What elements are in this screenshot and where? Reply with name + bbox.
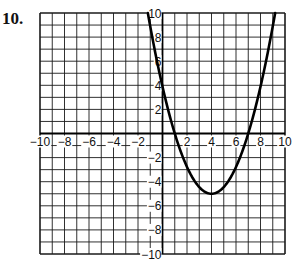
x-tick-label: −4 (107, 135, 121, 149)
y-tick-label: 8 (155, 31, 162, 45)
x-tick-label: −2 (131, 135, 145, 149)
y-tick-label: 10 (148, 7, 162, 21)
x-tick-label: 10 (278, 135, 292, 149)
x-tick-label: −8 (58, 135, 72, 149)
y-tick-label: −4 (148, 175, 162, 189)
y-tick-label: −6 (148, 199, 162, 213)
y-tick-label: −8 (148, 223, 162, 237)
parabola-graph: −10−8−6−4−2246810−10−8−6−4−2246810 (0, 0, 292, 261)
x-tick-label: 8 (257, 135, 264, 149)
y-tick-label: 2 (155, 103, 162, 117)
y-tick-label: −10 (141, 248, 162, 261)
x-tick-label: 2 (184, 135, 191, 149)
x-tick-label: 4 (208, 135, 215, 149)
x-tick-label: −6 (82, 135, 96, 149)
x-tick-label: −10 (30, 135, 51, 149)
y-tick-label: −2 (148, 151, 162, 165)
x-tick-label: 6 (233, 135, 240, 149)
